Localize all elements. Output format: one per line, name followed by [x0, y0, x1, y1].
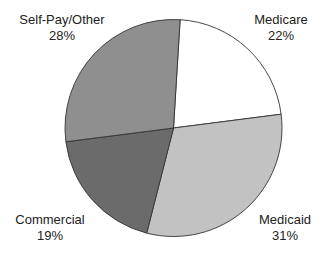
label-percent: 19% [8, 228, 92, 244]
label-name: Medicare [246, 12, 316, 28]
label-name: Medicaid [252, 212, 318, 228]
label-percent: 22% [246, 28, 316, 44]
label-name: Self-Pay/Other [10, 12, 114, 28]
label-medicaid: Medicaid 31% [252, 212, 318, 244]
label-medicare: Medicare 22% [246, 12, 316, 44]
label-percent: 28% [10, 28, 114, 44]
label-self-pay-other: Self-Pay/Other 28% [10, 12, 114, 44]
label-commercial: Commercial 19% [8, 212, 92, 244]
label-percent: 31% [252, 228, 318, 244]
label-name: Commercial [8, 212, 92, 228]
